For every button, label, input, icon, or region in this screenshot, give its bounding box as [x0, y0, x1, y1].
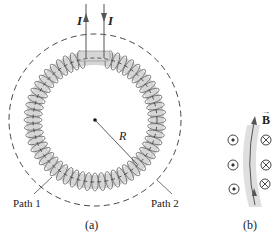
radius-line [95, 120, 137, 164]
toroid-gap-section [78, 51, 110, 61]
toroid-diagram: I I R Path 1 Path 2 (a) B → [0, 0, 274, 236]
caption-a: (a) [85, 218, 98, 232]
path2-label: Path 2 [151, 197, 179, 209]
caption-b: (b) [243, 218, 257, 232]
current-arrow-up-icon [83, 13, 89, 22]
panel-b: B → (b) [228, 107, 271, 232]
current-label-right: I [107, 13, 114, 28]
current-label-left: I [76, 13, 83, 28]
radius-label: R [118, 129, 127, 143]
path2-leader [157, 180, 172, 194]
into-page-symbols [260, 135, 271, 189]
panel-a: I I R Path 1 Path 2 (a) [9, 4, 181, 232]
field-vector-arrow: → [262, 107, 270, 116]
current-arrow-down-icon [101, 13, 107, 22]
field-arrow-icon [251, 116, 257, 125]
path1-leader [34, 177, 52, 194]
path1-label: Path 1 [13, 197, 41, 209]
out-of-page-symbols [228, 135, 239, 194]
